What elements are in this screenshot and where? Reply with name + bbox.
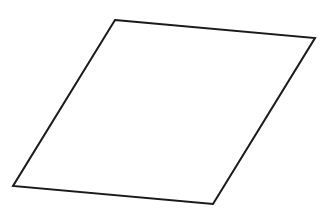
parallelogram-shape (13, 20, 315, 204)
diagram-canvas (0, 0, 328, 213)
